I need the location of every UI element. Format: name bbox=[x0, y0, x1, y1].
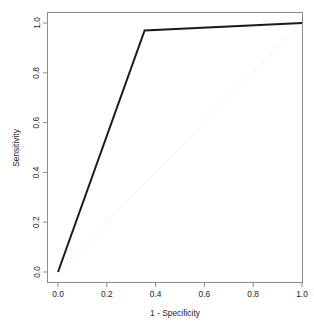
y-axis-tick-label: 0.6 bbox=[32, 116, 42, 128]
x-axis-tick-label: 0.2 bbox=[101, 289, 113, 299]
y-axis-title: Sensitivity bbox=[11, 128, 21, 167]
y-axis-tick-label: 0.2 bbox=[32, 216, 42, 228]
x-axis-tick-label: 0.4 bbox=[150, 289, 162, 299]
y-axis-tick-label: 0.4 bbox=[32, 166, 42, 178]
x-axis-tick-label: 0.6 bbox=[199, 289, 211, 299]
x-axis-tick-label: 1.0 bbox=[296, 289, 308, 299]
y-axis-tick-label: 1.0 bbox=[32, 17, 42, 29]
x-axis-title: 1 - Specificity bbox=[150, 308, 201, 318]
plot-canvas: 0.00.20.40.60.81.0 0.00.20.40.60.81.0 1 … bbox=[0, 0, 314, 325]
y-axis-tick-label: 0.8 bbox=[32, 67, 42, 79]
y-axis-tick-label: 0.0 bbox=[32, 266, 42, 278]
roc-plot-figure: 0.00.20.40.60.81.0 0.00.20.40.60.81.0 1 … bbox=[0, 0, 314, 325]
x-axis-tick-label: 0.8 bbox=[247, 289, 259, 299]
x-axis-tick-label: 0.0 bbox=[52, 289, 64, 299]
